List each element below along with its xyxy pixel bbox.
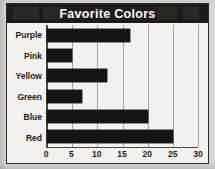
bar (47, 90, 82, 103)
y-axis-label: Blue (7, 107, 46, 128)
figure-frame: Favorite Colors PurplePinkYellowGreenBlu… (6, 3, 209, 164)
bar-series (47, 25, 198, 147)
bar (47, 69, 107, 82)
bar (47, 130, 173, 143)
bar (47, 29, 130, 42)
x-tick-label: 30 (193, 149, 202, 159)
y-axis-label: Purple (7, 25, 46, 46)
scan-artifact (13, 6, 39, 20)
chart-plot-card: PurplePinkYellowGreenBlueRed 05101520253… (7, 23, 208, 163)
bar-row (47, 86, 198, 106)
bar-row (47, 66, 198, 86)
y-axis-label: Pink (7, 46, 46, 67)
x-tick-label: 25 (168, 149, 177, 159)
chart-title: Favorite Colors (59, 7, 155, 21)
x-axis-tick-labels: 051015202530 (46, 148, 198, 162)
scan-artifact (157, 6, 177, 20)
x-tick-label: 5 (69, 149, 74, 159)
scan-artifact (183, 6, 199, 20)
bar-row (47, 106, 198, 126)
y-axis-label: Yellow (7, 66, 46, 87)
x-tick-label: 15 (117, 149, 126, 159)
x-tick-label: 20 (143, 149, 152, 159)
x-tick-label: 0 (44, 149, 49, 159)
x-tick-label: 10 (92, 149, 101, 159)
y-axis-label: Red (7, 128, 46, 149)
chart-title-bar: Favorite Colors (7, 4, 208, 23)
bar-row (47, 25, 198, 45)
bar-row (47, 127, 198, 147)
scan-artifact (43, 6, 61, 20)
bar-row (47, 45, 198, 65)
chart-screenshot: Favorite Colors PurplePinkYellowGreenBlu… (0, 0, 215, 169)
bar (47, 110, 148, 123)
plot-area (46, 25, 198, 148)
y-axis-label: Green (7, 87, 46, 108)
y-axis-category-labels: PurplePinkYellowGreenBlueRed (7, 25, 46, 148)
bar (47, 49, 72, 62)
gridline (198, 25, 199, 147)
